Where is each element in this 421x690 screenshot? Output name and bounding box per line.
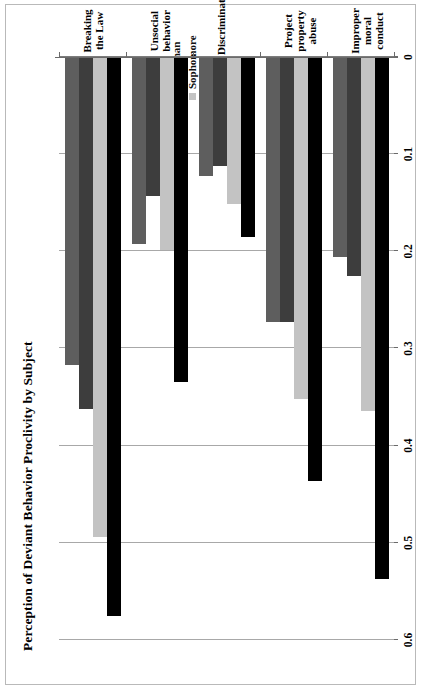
x-tick-label: 0.2 — [402, 244, 414, 258]
bar-row — [93, 57, 107, 640]
bar-row — [333, 57, 347, 640]
chart-page: Perception of Deviant Behavior Proclivit… — [0, 0, 421, 690]
bar-row — [65, 57, 79, 640]
bar-freshman[interactable] — [375, 57, 389, 579]
bar-freshman[interactable] — [107, 57, 121, 616]
bar-senior[interactable] — [199, 57, 213, 176]
bar-row — [308, 57, 322, 640]
x-tick-mark — [394, 56, 398, 57]
bar-senior[interactable] — [132, 57, 146, 244]
bar-row — [266, 57, 280, 640]
bar-junior[interactable] — [280, 57, 294, 322]
bar-junior[interactable] — [146, 57, 160, 196]
x-tick-mark — [394, 445, 398, 446]
category-label: Project property abuse — [282, 7, 318, 55]
bar-sophomore[interactable] — [294, 57, 308, 399]
x-tick-label: 0.3 — [402, 341, 414, 355]
bar-group — [260, 57, 327, 640]
bar-sophomore[interactable] — [361, 57, 375, 411]
x-tick-mark — [394, 348, 398, 349]
bar-row — [347, 57, 361, 640]
bar-row — [280, 57, 294, 640]
value-axis-line — [55, 57, 398, 58]
bar-row — [107, 57, 121, 640]
bar-group — [327, 57, 394, 640]
bar-sophomore[interactable] — [160, 57, 174, 250]
bar-sophomore[interactable] — [227, 57, 241, 204]
x-tick-mark — [394, 250, 398, 251]
bar-row — [241, 57, 255, 640]
bar-group — [126, 57, 193, 640]
bar-senior[interactable] — [266, 57, 280, 322]
bar-row — [146, 57, 160, 640]
x-tick-mark — [394, 542, 398, 543]
bar-sophomore[interactable] — [93, 57, 107, 537]
bar-senior[interactable] — [333, 57, 347, 257]
bar-row — [213, 57, 227, 640]
bar-freshman[interactable] — [241, 57, 255, 237]
bar-row — [227, 57, 241, 640]
category-label: Improper moral conduct — [349, 7, 385, 55]
chart-title: Perception of Deviant Behavior Proclivit… — [20, 51, 36, 651]
category-labels: Breaking the LawUnsocial behaviorDiscrim… — [59, 7, 394, 55]
bar-row — [174, 57, 188, 640]
bar-junior[interactable] — [347, 57, 361, 276]
bar-row — [375, 57, 389, 640]
bar-row — [199, 57, 213, 640]
bar-freshman[interactable] — [174, 57, 188, 383]
category-label: Unsocial behavior — [148, 7, 172, 55]
x-tick-mark — [394, 153, 398, 154]
bar-row — [79, 57, 93, 640]
bar-senior[interactable] — [65, 57, 79, 365]
rotated-chart-stage: Perception of Deviant Behavior Proclivit… — [6, 5, 421, 690]
category-label: Breaking the Law — [81, 7, 105, 55]
plot-area — [59, 57, 394, 640]
bar-group — [193, 57, 260, 640]
x-tick-label: 0.4 — [402, 438, 414, 452]
bar-junior[interactable] — [213, 57, 227, 166]
category-label: Discrimination — [215, 7, 227, 55]
bar-row — [132, 57, 146, 640]
bar-row — [361, 57, 375, 640]
page-border: Perception of Deviant Behavior Proclivit… — [5, 4, 416, 685]
x-tick-label: 0.1 — [402, 147, 414, 161]
chart-canvas: Perception of Deviant Behavior Proclivit… — [6, 5, 421, 690]
x-tick-label: 0.5 — [402, 536, 414, 550]
x-tick-mark — [394, 639, 398, 640]
bar-row — [160, 57, 174, 640]
bar-row — [294, 57, 308, 640]
x-axis-ticks: 0.60.50.40.30.20.10 — [398, 57, 421, 640]
x-tick-label: 0 — [402, 54, 414, 60]
bar-freshman[interactable] — [308, 57, 322, 481]
bar-junior[interactable] — [79, 57, 93, 409]
bar-group — [59, 57, 126, 640]
x-tick-label: 0.6 — [402, 633, 414, 647]
